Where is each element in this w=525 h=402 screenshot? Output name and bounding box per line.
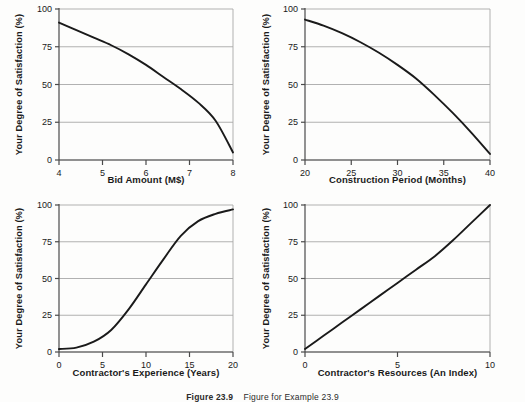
y-tick-label: 100 [283,4,298,14]
y-tick-label: 25 [288,310,298,320]
x-axis-title: Contractor's Resources (An Index) [318,367,478,378]
figure-caption: Figure 23.9 Figure for Example 23.9 [0,386,525,402]
y-tick-label: 50 [42,274,52,284]
panel-background [262,0,525,196]
x-tick-label: 40 [485,168,495,178]
figure-caption-body: Figure for Example 23.9 [244,392,339,402]
x-tick-label: 4 [56,168,61,178]
y-axis-title: Your Degree of Satisfaction (%) [14,208,24,349]
y-axis-title: Your Degree of Satisfaction (%) [262,14,271,155]
y-tick-label: 75 [288,42,298,52]
x-tick-label: 8 [230,168,235,178]
chart-panel-contractor-experience: 025507510005101520Contractor's Experienc… [0,196,262,388]
panel-background [0,0,262,196]
y-tick-label: 0 [293,155,298,165]
x-tick-label: 0 [56,360,61,370]
chart-panel-bid-amount: 025507510045678Bid Amount (M$)Your Degre… [0,0,262,196]
figure-container: 025507510045678Bid Amount (M$)Your Degre… [0,0,525,402]
y-tick-label: 50 [288,274,298,284]
y-tick-label: 75 [42,237,52,247]
chart-panel-contractor-resources: 02550751000510Contractor's Resources (An… [262,196,525,388]
y-tick-label: 0 [47,347,52,357]
x-tick-label: 7 [187,168,192,178]
y-tick-label: 100 [283,200,298,210]
y-tick-label: 0 [293,347,298,357]
chart-svg: 02550751000510Contractor's Resources (An… [262,196,525,388]
y-tick-label: 100 [37,4,52,14]
chart-svg: 02550751002025303540Construction Period … [262,0,525,196]
chart-svg: 025507510005101520Contractor's Experienc… [0,196,262,388]
y-tick-label: 100 [37,200,52,210]
chart-svg: 025507510045678Bid Amount (M$)Your Degre… [0,0,262,196]
x-tick-label: 20 [300,168,310,178]
y-tick-label: 75 [288,237,298,247]
x-axis-title: Contractor's Experience (Years) [73,367,220,378]
figure-caption-label: Figure 23.9 [186,392,233,402]
panel-background [0,196,262,388]
y-axis-title: Your Degree of Satisfaction (%) [262,208,271,349]
x-tick-label: 0 [302,360,307,370]
y-axis-title: Your Degree of Satisfaction (%) [14,14,24,155]
x-tick-label: 5 [100,168,105,178]
y-tick-label: 50 [42,80,52,90]
x-tick-label: 20 [228,360,238,370]
y-tick-label: 75 [42,42,52,52]
chart-panel-construction-period: 02550751002025303540Construction Period … [262,0,525,196]
y-tick-label: 25 [288,117,298,127]
y-tick-label: 25 [42,310,52,320]
x-axis-title: Bid Amount (M$) [107,174,184,185]
x-axis-title: Construction Period (Months) [329,174,466,185]
y-tick-label: 50 [288,80,298,90]
y-tick-label: 0 [47,155,52,165]
x-tick-label: 10 [485,360,495,370]
y-tick-label: 25 [42,117,52,127]
